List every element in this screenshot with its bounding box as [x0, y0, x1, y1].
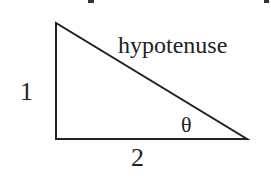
horizontal-side-label: 2 [131, 145, 144, 171]
angle-theta-label: θ [181, 114, 192, 136]
triangle-diagram: hypotenuse 1 2 θ [0, 0, 271, 187]
vertical-side-label: 1 [20, 79, 33, 105]
hypotenuse-label: hypotenuse [118, 33, 227, 57]
